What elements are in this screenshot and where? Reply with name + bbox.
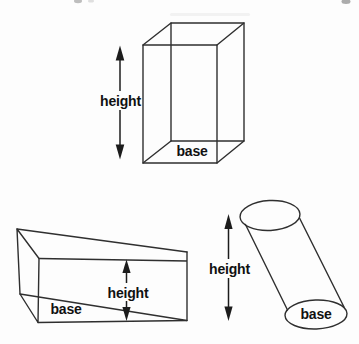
wedge-base-label: base: [50, 301, 82, 317]
arrow-down-icon: [116, 145, 125, 160]
cylinder-height-label: height: [209, 261, 250, 277]
scan-artifact: [342, 0, 351, 4]
diagram-canvas: height base height base: [0, 0, 359, 344]
wedge-left-face: [17, 229, 39, 323]
textbook-diagram-page: height base height base: [0, 0, 359, 344]
rectangular-prism-figure: height base: [99, 23, 244, 163]
prism-height-label: height: [100, 93, 141, 109]
scan-artifact: [74, 0, 82, 3]
cylinder-base-label: base: [300, 306, 332, 322]
arrow-up-icon: [224, 214, 232, 229]
arrow-down-icon: [122, 307, 130, 321]
scan-artifact: [170, 13, 250, 16]
wedge-base-diagonal: [20, 294, 187, 321]
rectangular-prism-wireframe: [143, 23, 244, 163]
arrow-up-icon: [122, 260, 130, 274]
wedge-top-edge: [17, 229, 187, 252]
prism-base-label: base: [176, 143, 208, 159]
prism-back-face: [171, 23, 244, 141]
triangular-prism-wireframe: [17, 229, 187, 323]
oblique-cylinder-figure: height base: [208, 199, 348, 330]
triangular-prism-figure: height base: [17, 229, 187, 323]
cylinder-top-ellipse: [239, 199, 300, 232]
scan-artifacts: [74, 0, 351, 16]
wedge-height-label: height: [108, 285, 149, 301]
arrow-down-icon: [224, 307, 232, 322]
arrow-up-icon: [116, 46, 125, 61]
cylinder-side-edges: [246, 218, 345, 310]
scan-artifact: [88, 0, 94, 3]
prism-depth-edges: [143, 23, 244, 163]
